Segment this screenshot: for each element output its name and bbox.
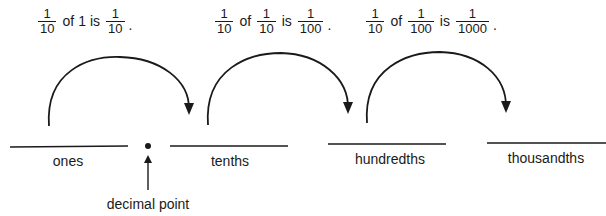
arc-arrow-ones-to-tenths xyxy=(49,57,189,126)
ones-line xyxy=(10,146,128,147)
arc-arrow-hundredths-to-thousandths xyxy=(367,52,506,123)
arrowhead-icon xyxy=(184,103,194,115)
label-tenths: tenths xyxy=(200,153,260,169)
decimal-point-dot xyxy=(145,143,151,149)
arrowhead-icon xyxy=(343,102,353,114)
place-value-diagram xyxy=(0,0,606,216)
arrow-up-icon xyxy=(144,155,152,163)
label-thousandths: thousandths xyxy=(496,150,596,166)
arrowhead-icon xyxy=(501,101,511,113)
arc-arrow-tenths-to-hundredths xyxy=(208,53,348,125)
label-hundredths: hundredths xyxy=(340,151,440,167)
label-ones: ones xyxy=(40,153,96,169)
label-decimal-point: decimal point xyxy=(98,196,198,212)
